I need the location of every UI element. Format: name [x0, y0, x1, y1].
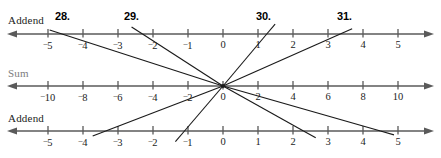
- tick-label: 4: [290, 91, 295, 102]
- tick-label: 2: [290, 39, 295, 50]
- tick-value: 1: [255, 136, 260, 147]
- tick-label: –2: [183, 91, 192, 103]
- tick-value: 10: [45, 92, 56, 103]
- problem-number-value: 28: [55, 10, 67, 22]
- tick-value: 4: [82, 40, 87, 51]
- tick-label: –4: [78, 39, 87, 51]
- tick-value: 2: [152, 40, 157, 51]
- tick-label: –1: [183, 136, 192, 148]
- tick-label: 3: [325, 39, 330, 50]
- tick-label: –6: [113, 91, 122, 103]
- tick-label: –3: [113, 136, 122, 148]
- tick-value: 2: [290, 136, 295, 147]
- tick-value: 4: [152, 92, 157, 103]
- tick-label: –5: [43, 136, 52, 148]
- tick-label: 5: [395, 39, 400, 50]
- tick-label: 2: [290, 136, 295, 147]
- tick-value: 3: [117, 40, 122, 51]
- tick-value: 3: [117, 137, 122, 148]
- tick-label: –4: [78, 136, 87, 148]
- tick-label: –1: [183, 39, 192, 51]
- axis-arrow-left: [7, 128, 17, 135]
- tick-label: 1: [255, 136, 260, 147]
- tick-value: 2: [152, 137, 157, 148]
- tick-value: 8: [360, 91, 365, 102]
- row-label-addend-bottom: Addend: [8, 112, 44, 124]
- tick-value: 2: [187, 92, 192, 103]
- problem-number-period: .: [136, 10, 139, 22]
- tick-value: 4: [290, 91, 295, 102]
- tick-value: 8: [82, 92, 87, 103]
- tick-label: –2: [148, 39, 157, 51]
- number-line-addend-top: [7, 29, 434, 38]
- tick-label: –10: [41, 91, 55, 103]
- tick-label: 0: [220, 39, 225, 50]
- problem-number-30: 30.: [256, 10, 271, 22]
- tick-value: 4: [360, 136, 365, 147]
- problem-number-28: 28.: [55, 10, 70, 22]
- tick-value: 5: [395, 39, 400, 50]
- number-lines-figure: [0, 0, 441, 158]
- upper-segment: [223, 34, 340, 86]
- tick-label: 0: [220, 91, 225, 102]
- row-label-sum: Sum: [8, 67, 29, 79]
- problem-number-period: .: [67, 10, 70, 22]
- tick-value: 10: [393, 91, 404, 102]
- problem-number-value: 31: [337, 10, 349, 22]
- tick-label: –8: [78, 91, 87, 103]
- tick-value: 6: [117, 92, 122, 103]
- tick-label: –4: [148, 91, 157, 103]
- tick-value: 5: [395, 136, 400, 147]
- lower-segment: [106, 86, 223, 131]
- upper-overshoot: [267, 24, 275, 34]
- tick-value: 3: [325, 136, 330, 147]
- tick-value: 1: [187, 40, 192, 51]
- tick-label: 2: [255, 91, 260, 102]
- axis-arrow-left: [7, 83, 17, 90]
- tick-label: –3: [113, 39, 122, 51]
- tick-value: 3: [325, 39, 330, 50]
- tick-label: 1: [255, 39, 260, 50]
- upper-overshoot: [132, 27, 143, 34]
- number-line-addend-bottom: [7, 126, 434, 135]
- tick-value: 4: [82, 137, 87, 148]
- tick-value: 0: [220, 136, 225, 147]
- tick-value: 1: [255, 39, 260, 50]
- axis-arrow-right: [424, 83, 434, 90]
- tick-label: 6: [325, 91, 330, 102]
- problem-number-value: 30: [256, 10, 268, 22]
- tick-value: 4: [360, 39, 365, 50]
- tick-value: 2: [290, 39, 295, 50]
- convergence-point: [221, 84, 225, 88]
- tick-value: 2: [255, 91, 260, 102]
- problem-number-value: 29: [124, 10, 136, 22]
- tick-label: –2: [148, 136, 157, 148]
- tick-value: 5: [47, 40, 52, 51]
- tick-label: 0: [220, 136, 225, 147]
- lower-segment: [223, 86, 381, 131]
- tick-label: 5: [395, 136, 400, 147]
- row-label-addend-top: Addend: [8, 14, 44, 26]
- tick-value: 0: [220, 39, 225, 50]
- axis-arrow-left: [7, 31, 17, 38]
- tick-value: 5: [47, 137, 52, 148]
- tick-value: 0: [220, 91, 225, 102]
- tick-label: –5: [43, 39, 52, 51]
- tick-label: 4: [360, 39, 365, 50]
- tick-label: 4: [360, 136, 365, 147]
- tick-value: 1: [187, 137, 192, 148]
- axis-arrow-right: [424, 128, 434, 135]
- tick-label: 3: [325, 136, 330, 147]
- tick-label: 8: [360, 91, 365, 102]
- number-line-worksheet: –5–4–3–2–1012345Addend–10–8–6–4–20246810…: [0, 0, 441, 158]
- problem-number-29: 29.: [124, 10, 139, 22]
- axis-arrow-right: [424, 31, 434, 38]
- problem-number-period: .: [349, 10, 352, 22]
- problem-number-31: 31.: [337, 10, 352, 22]
- tick-label: 10: [393, 91, 404, 102]
- problem-number-period: .: [268, 10, 271, 22]
- lower-overshoot: [304, 131, 316, 138]
- tick-value: 6: [325, 91, 330, 102]
